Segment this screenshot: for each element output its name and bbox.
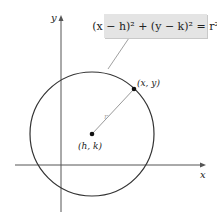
circle-diagram: x y r (h, k) (x, y) (x − h)² + (y − k)² … — [0, 0, 217, 222]
equation-box: (x − h)² + (y − k)² = r² — [104, 14, 207, 38]
x-axis-arrow-icon — [200, 163, 206, 168]
equation-text: (x − h)² + (y − k)² = r² — [92, 20, 217, 33]
y-axis-label: y — [50, 12, 57, 23]
x-axis-label: x — [200, 169, 206, 180]
center-point — [90, 132, 95, 137]
point-label: (x, y) — [137, 78, 160, 88]
radius-line — [92, 89, 134, 134]
y-axis-arrow-icon — [59, 15, 64, 21]
center-label: (h, k) — [78, 141, 102, 151]
circle-point — [132, 87, 137, 92]
callout-pointer — [108, 38, 129, 69]
